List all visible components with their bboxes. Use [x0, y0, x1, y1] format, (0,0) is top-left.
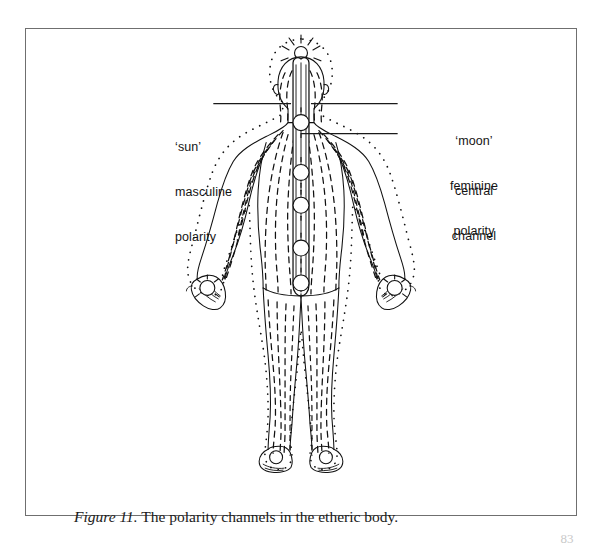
label-sun-masculine-polarity: ‘sun’ masculine polarity — [175, 110, 232, 275]
label-moon-line1: ‘moon’ — [426, 134, 522, 149]
label-sun-line1: ‘sun’ — [175, 140, 232, 155]
right-foot — [310, 446, 343, 472]
solar-plexus-chakra — [293, 197, 309, 213]
energy-channels-left — [222, 71, 294, 455]
figure-caption: Figure 11. The polarity channels in the … — [74, 508, 398, 526]
figure-number: Figure 11. — [74, 508, 138, 525]
label-sun-line2: masculine — [175, 185, 232, 200]
root-chakra — [293, 275, 309, 291]
right-foot-chakra — [319, 451, 332, 464]
heart-chakra — [293, 164, 309, 180]
label-central-channel: central channel — [426, 154, 522, 274]
label-central-line2: channel — [426, 229, 522, 244]
left-foot — [259, 446, 292, 472]
left-palm-chakra — [200, 280, 215, 295]
figure-frame: .outline { fill:none; stroke:#111; strok… — [25, 28, 577, 516]
throat-chakra — [293, 115, 309, 131]
right-hand — [376, 275, 415, 310]
right-palm-chakra — [387, 280, 402, 295]
sacral-chakra — [293, 240, 309, 256]
page-number: 83 — [552, 531, 582, 545]
left-foot-chakra — [270, 451, 283, 464]
label-central-line1: central — [426, 184, 522, 199]
energy-channels-right — [308, 71, 380, 455]
figure-page: .outline { fill:none; stroke:#111; strok… — [0, 0, 601, 545]
left-hand — [186, 275, 225, 310]
figure-caption-text: The polarity channels in the etheric bod… — [138, 508, 398, 525]
label-sun-line3: polarity — [175, 230, 232, 245]
